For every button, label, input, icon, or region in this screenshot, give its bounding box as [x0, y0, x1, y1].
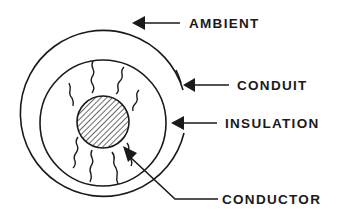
conductor-arrow: [123, 146, 218, 199]
ambient-arrow: [132, 16, 180, 30]
conductor-label: CONDUCTOR: [222, 193, 321, 207]
conduit-arrow: [183, 78, 229, 92]
insulation-arrow: [171, 116, 217, 130]
ambient-label: AMBIENT: [189, 17, 260, 31]
insulation-label: INSULATION: [225, 117, 320, 131]
cable-cross-section-diagram: [0, 0, 347, 224]
conductor-core: [77, 96, 129, 148]
conduit-ring-segment: [176, 70, 181, 83]
conduit-label: CONDUIT: [237, 79, 308, 93]
